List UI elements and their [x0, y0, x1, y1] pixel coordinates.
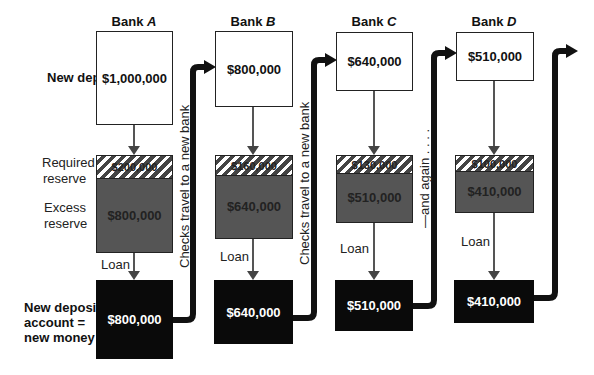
bank-c-excess-reserve: $510,000	[337, 174, 412, 221]
bank-a-required-reserve: $200,000	[97, 156, 172, 179]
bank-d-reserve-box: $100,000 $410,000	[455, 155, 534, 213]
bank-a-loan-label: Loan	[101, 257, 130, 273]
bank-b-excess-reserve: $640,000	[216, 176, 292, 237]
bank-c-reserve-box: $130,000 $510,000	[336, 155, 413, 223]
bank-b-new-money-box: $640,000	[214, 280, 293, 344]
row-label-new-money: New deposit account = new money	[24, 300, 101, 345]
bank-d-new-money-box: $410,000	[454, 280, 534, 323]
bank-d-loan-label: Loan	[461, 234, 490, 250]
connector-label-a-to-b: Checks travel to a new bank	[177, 105, 192, 268]
bank-d-required-reserve: $100,000	[456, 156, 533, 172]
bank-c-new-money-box: $510,000	[335, 280, 413, 331]
bank-b-title: Bank B	[213, 14, 293, 29]
bank-c-deposit-box: $640,000	[336, 32, 413, 91]
bank-d-deposit-box: $510,000	[456, 32, 534, 81]
bank-a-deposit-box: $1,000,000	[96, 31, 173, 125]
bank-a-title: Bank A	[94, 14, 174, 29]
bank-b-reserve-box: $160,000 $640,000	[215, 155, 293, 239]
bank-a-excess-reserve: $800,000	[97, 179, 172, 251]
bank-c-required-reserve: $130,000	[337, 156, 412, 174]
bank-b-deposit-box: $800,000	[215, 31, 293, 107]
bank-a-new-money-box: $800,000	[96, 280, 173, 359]
bank-b-loan-label: Loan	[220, 249, 249, 265]
connector-label-c-to-d: —and again . . . .	[417, 129, 432, 228]
bank-b-required-reserve: $160,000	[216, 156, 292, 176]
bank-c-loan-label: Loan	[340, 241, 369, 257]
connector-label-b-to-c: Checks travel to a new bank	[297, 102, 312, 265]
row-label-excess-reserve: Excess reserve	[44, 200, 87, 232]
bank-d-excess-reserve: $410,000	[456, 172, 533, 211]
row-label-required-reserve: Required reserve	[42, 155, 95, 187]
bank-a-reserve-box: $200,000 $800,000	[96, 155, 173, 253]
bank-c-title: Bank C	[334, 14, 414, 29]
bank-d-title: Bank D	[454, 14, 534, 29]
